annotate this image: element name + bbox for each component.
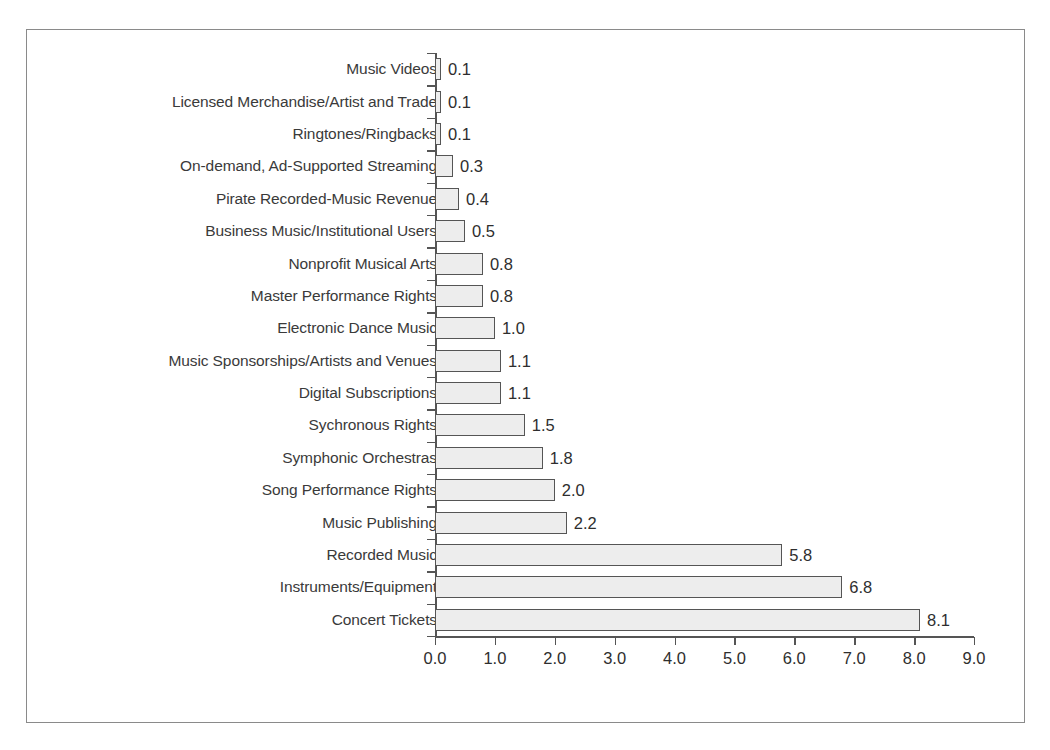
bar-row: Pirate Recorded-Music Revenue0.4 [27, 183, 1026, 215]
category-label: Digital Subscriptions [299, 384, 437, 402]
y-axis-tick [427, 312, 435, 313]
bar-row: Music Publishing2.2 [27, 506, 1026, 538]
x-axis-tick [794, 637, 795, 645]
x-axis-tick [734, 637, 735, 645]
category-label: Music Publishing [322, 514, 437, 532]
category-label: Pirate Recorded-Music Revenue [216, 190, 437, 208]
y-axis-tick [427, 604, 435, 605]
bar-value-label: 0.5 [472, 222, 495, 241]
bar-row: Digital Subscriptions1.1 [27, 377, 1026, 409]
bar [435, 609, 920, 631]
x-axis-tick-label: 9.0 [963, 649, 986, 668]
x-axis-line [435, 636, 974, 638]
bar-value-label: 2.2 [574, 513, 597, 532]
y-axis-tick [427, 345, 435, 346]
category-label: Sychronous Rights [309, 416, 437, 434]
bar-value-label: 6.8 [849, 578, 872, 597]
y-axis-tick [427, 539, 435, 540]
category-label: Symphonic Orchestras [282, 449, 437, 467]
category-label: On-demand, Ad-Supported Streaming [180, 157, 437, 175]
bar-value-label: 0.3 [460, 157, 483, 176]
category-label: Song Performance Rights [262, 481, 437, 499]
x-axis-tick-label: 5.0 [723, 649, 746, 668]
bar-value-label: 0.1 [448, 124, 471, 143]
x-axis-tick [974, 637, 975, 645]
category-label: Instruments/Equipment [280, 578, 437, 596]
bar-row: Ringtones/Ringbacks0.1 [27, 118, 1026, 150]
y-axis-tick [427, 571, 435, 572]
x-axis-tick [615, 637, 616, 645]
bar [435, 285, 483, 307]
bar [435, 91, 441, 113]
chart-frame: Music Videos0.1Licensed Merchandise/Arti… [26, 29, 1025, 723]
bar [435, 155, 453, 177]
plot-area: Music Videos0.1Licensed Merchandise/Arti… [27, 30, 1026, 724]
bar [435, 58, 441, 80]
bar [435, 479, 555, 501]
category-label: Music Sponsorships/Artists and Venues [168, 352, 437, 370]
y-axis-tick [427, 150, 435, 151]
category-label: Concert Tickets [332, 611, 437, 629]
bar [435, 447, 543, 469]
bar-value-label: 0.1 [448, 60, 471, 79]
bar-row: Music Videos0.1 [27, 53, 1026, 85]
bar [435, 317, 495, 339]
category-label: Master Performance Rights [251, 287, 437, 305]
bar-row: Business Music/Institutional Users0.5 [27, 215, 1026, 247]
category-label: Business Music/Institutional Users [205, 222, 437, 240]
y-axis-tick [427, 247, 435, 248]
y-axis-tick [427, 409, 435, 410]
x-axis-tick-label: 2.0 [543, 649, 566, 668]
bar-value-label: 0.4 [466, 189, 489, 208]
bar [435, 123, 441, 145]
bar-row: On-demand, Ad-Supported Streaming0.3 [27, 150, 1026, 182]
category-label: Licensed Merchandise/Artist and Trade [172, 93, 437, 111]
bar [435, 576, 842, 598]
bar-row: Concert Tickets8.1 [27, 604, 1026, 636]
bar-row: Electronic Dance Music1.0 [27, 312, 1026, 344]
bar-value-label: 0.8 [490, 254, 513, 273]
bar [435, 253, 483, 275]
x-axis-tick-label: 8.0 [903, 649, 926, 668]
bar [435, 350, 501, 372]
x-axis-tick-label: 1.0 [483, 649, 506, 668]
category-label: Music Videos [346, 60, 437, 78]
x-axis-tick-label: 6.0 [783, 649, 806, 668]
x-axis-tick-label: 0.0 [424, 649, 447, 668]
x-axis-tick [914, 637, 915, 645]
category-label: Ringtones/Ringbacks [292, 125, 437, 143]
x-axis-tick-label: 4.0 [663, 649, 686, 668]
bar-value-label: 1.1 [508, 351, 531, 370]
x-axis-tick [854, 637, 855, 645]
y-axis-tick [427, 474, 435, 475]
y-axis-tick [427, 215, 435, 216]
bar [435, 544, 782, 566]
bar-value-label: 2.0 [562, 481, 585, 500]
category-label: Electronic Dance Music [277, 319, 437, 337]
bar-row: Recorded Music5.8 [27, 539, 1026, 571]
bar-row: Song Performance Rights2.0 [27, 474, 1026, 506]
x-axis-tick [495, 637, 496, 645]
category-label: Recorded Music [326, 546, 437, 564]
bar [435, 512, 567, 534]
bar-row: Sychronous Rights1.5 [27, 409, 1026, 441]
bar-row: Nonprofit Musical Arts0.8 [27, 247, 1026, 279]
bar-value-label: 1.0 [502, 319, 525, 338]
bar-value-label: 1.5 [532, 416, 555, 435]
bar-row: Symphonic Orchestras1.8 [27, 442, 1026, 474]
bar [435, 188, 459, 210]
y-axis-tick [427, 183, 435, 184]
bar-value-label: 0.1 [448, 92, 471, 111]
x-axis-tick [675, 637, 676, 645]
x-axis-tick [555, 637, 556, 645]
x-axis-tick [435, 637, 436, 645]
bar-value-label: 0.8 [490, 286, 513, 305]
bar [435, 382, 501, 404]
bar-row: Licensed Merchandise/Artist and Trade0.1 [27, 85, 1026, 117]
bar-value-label: 5.8 [789, 546, 812, 565]
bar [435, 220, 465, 242]
bar-row: Instruments/Equipment6.8 [27, 571, 1026, 603]
x-axis-tick-label: 3.0 [603, 649, 626, 668]
y-axis-tick [427, 118, 435, 119]
x-axis-tick-label: 7.0 [843, 649, 866, 668]
